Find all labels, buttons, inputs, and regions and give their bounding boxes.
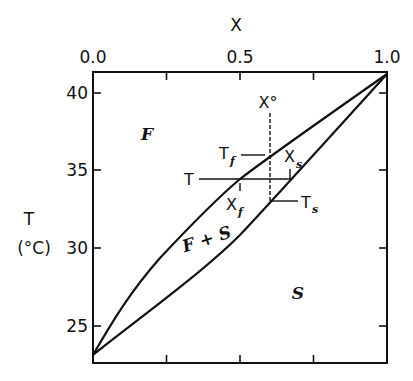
region-f-label: F (140, 124, 155, 144)
ts-subscript: s (312, 203, 318, 216)
xf-label: X (226, 195, 237, 214)
t-label: T (183, 170, 194, 189)
ts-label: T (300, 193, 311, 212)
y-tick-label-25: 25 (66, 316, 88, 336)
phase-diagram: X 0.0 0.5 1.0 40 35 30 25 T (°C) X° T T … (0, 0, 413, 381)
y-tick-label-30: 30 (66, 238, 88, 258)
y-axis-unit: (°C) (17, 238, 51, 258)
y-tick-label-40: 40 (66, 83, 88, 103)
region-s-label: S (292, 283, 304, 303)
x-tick-label-0: 0.0 (79, 47, 106, 67)
x-axis-title: X (230, 15, 242, 35)
x-tick-label-05: 0.5 (226, 47, 253, 67)
y-tick-label-35: 35 (66, 160, 88, 180)
x-naught-label: X° (259, 93, 278, 112)
xf-subscript: f (237, 206, 245, 219)
xs-label: X (284, 147, 295, 166)
x-tick-label-1: 1.0 (373, 47, 400, 67)
tf-subscript: f (229, 155, 237, 168)
tf-label: T (218, 144, 229, 163)
y-axis-title: T (23, 209, 35, 229)
xs-subscript: s (296, 158, 302, 171)
region-fs-label: F + S (179, 222, 234, 257)
